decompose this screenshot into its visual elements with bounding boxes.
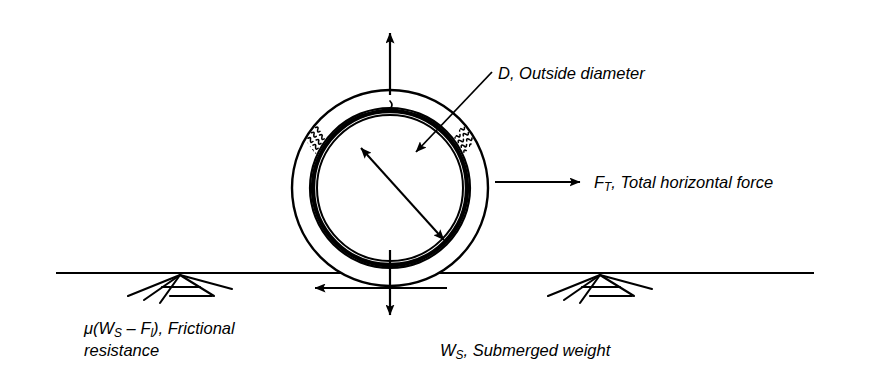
support-left: [128, 275, 232, 303]
outside-diameter-separator: ,: [510, 64, 519, 82]
frictional-resistance-line2: resistance: [84, 341, 159, 359]
friction-suffix: ), Frictional: [153, 319, 235, 337]
friction-middle: – F: [122, 319, 150, 337]
total-horizontal-force-text: Total horizontal force: [621, 173, 774, 191]
submerged-weight-subscript: S: [456, 348, 464, 362]
friction-subscript-submerged: S: [114, 326, 122, 340]
label-total-horizontal-force: FT, Total horizontal force: [594, 172, 773, 194]
submerged-weight-separator: ,: [464, 341, 473, 359]
label-frictional-resistance: μ(WS – Fl), Frictionalresistance: [84, 318, 235, 361]
support-right: [548, 275, 652, 303]
pipe-bore-circle: [317, 115, 463, 261]
total-horizontal-force-symbol: F: [594, 173, 604, 191]
total-horizontal-force-separator: ,: [611, 173, 620, 191]
submerged-weight-text: Submerged weight: [473, 341, 611, 359]
outside-diameter-symbol: D: [498, 64, 510, 82]
label-outside-diameter: D, Outside diameter: [498, 63, 645, 84]
figure-canvas: D, Outside diameter FT, Total horizontal…: [0, 0, 869, 389]
friction-prefix: μ(W: [84, 319, 114, 337]
label-submerged-weight: WS, Submerged weight: [440, 340, 610, 362]
outside-diameter-text: Outside diameter: [519, 64, 645, 82]
submerged-weight-symbol: W: [440, 341, 456, 359]
frictional-resistance-line1: μ(WS – Fl), Frictional: [84, 319, 235, 337]
